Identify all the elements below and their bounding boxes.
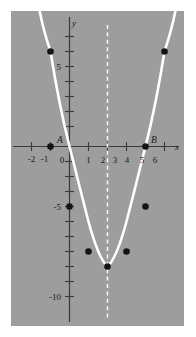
y-tick-label--10: -10 [49, 292, 61, 302]
y-axis-label: y [71, 18, 76, 28]
parabola-plot: -2 -1 0 1 2 3 4 5 6 5 -5 -10 y x A B [11, 11, 184, 326]
x-tick-label-3: 3 [113, 155, 118, 165]
x-tick-label-6: 6 [153, 155, 158, 165]
data-point [161, 48, 168, 55]
data-point [66, 203, 73, 210]
data-point-vertex [104, 263, 111, 270]
y-tick-label--5: -5 [54, 202, 62, 212]
data-point [85, 248, 92, 255]
x-tick-label--1: -1 [41, 154, 49, 164]
x-axis-label: x [174, 142, 179, 152]
data-point-b [142, 143, 149, 150]
origin-label: 0 [60, 155, 65, 165]
data-point [47, 48, 54, 55]
data-point [142, 203, 149, 210]
x-tick-label-2: 2 [101, 155, 106, 165]
data-point [123, 248, 130, 255]
point-b-label: B [151, 135, 157, 145]
plot-panel: -2 -1 0 1 2 3 4 5 6 5 -5 -10 y x A B [11, 11, 184, 326]
figure-page: -2 -1 0 1 2 3 4 5 6 5 -5 -10 y x A B [0, 0, 196, 337]
data-point-a [47, 143, 54, 150]
x-tick-label-4: 4 [125, 155, 130, 165]
point-a-label: A [56, 135, 63, 145]
x-tick-label--2: -2 [28, 154, 36, 164]
x-tick-label-5: 5 [140, 155, 145, 165]
x-tick-label-1: 1 [86, 155, 91, 165]
y-tick-label-5: 5 [57, 62, 62, 72]
